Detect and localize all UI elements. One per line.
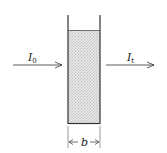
path-length-label: b	[81, 136, 88, 149]
path-length-dimension: b	[68, 126, 100, 149]
incident-intensity-label: I0	[27, 51, 37, 65]
cuvette	[68, 15, 100, 124]
transmitted-beam: It	[106, 51, 154, 68]
transmitted-intensity-label: It	[126, 51, 134, 65]
incident-beam: I0	[13, 51, 62, 68]
beer-lambert-diagram: I0 It b	[0, 0, 167, 153]
sample-solution	[68, 30, 100, 123]
